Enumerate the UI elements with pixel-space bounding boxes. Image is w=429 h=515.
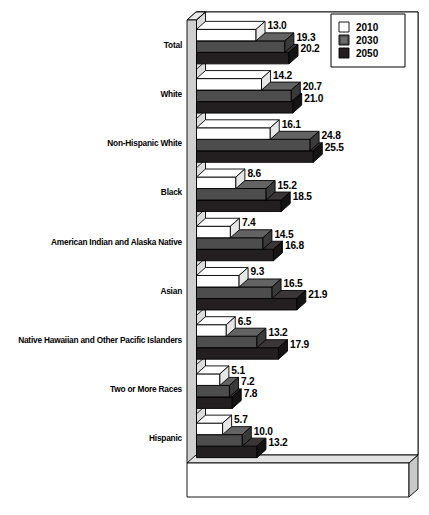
bar-front-face — [197, 79, 262, 91]
legend-swatch-2010 — [339, 22, 349, 32]
bar-value-label: 24.8 — [322, 130, 342, 141]
bar-value-label: 25.5 — [325, 142, 345, 153]
bar-front-face — [197, 287, 273, 299]
bar-front-face — [197, 29, 257, 41]
bar-front-face — [197, 189, 267, 201]
floor-right-face — [409, 455, 418, 497]
bar-value-label: 16.5 — [284, 278, 304, 289]
floor-front-face — [187, 463, 409, 497]
bar-value-label: 21.0 — [304, 93, 324, 104]
bar-front-face — [197, 52, 290, 64]
bar-value-label: 5.1 — [231, 365, 245, 376]
bar-front-face — [197, 238, 263, 250]
bar-value-label: 13.2 — [268, 327, 288, 338]
legend-label-2030: 2030 — [356, 35, 379, 46]
bar-value-label: 20.2 — [301, 43, 321, 54]
legend-label-2010: 2010 — [356, 22, 379, 33]
bar-value-label: 16.1 — [282, 119, 302, 130]
bar-value-label: 7.8 — [244, 388, 258, 399]
bar-value-label: 14.2 — [273, 70, 293, 81]
legend-label-2050: 2050 — [356, 48, 379, 59]
bar-front-face — [197, 374, 220, 386]
legend-swatch-inner — [341, 37, 347, 43]
category-label: American Indian and Alaska Native — [51, 237, 183, 247]
bar-front-face — [197, 90, 292, 102]
bar-value-label: 17.9 — [290, 339, 310, 350]
bar-front-face — [197, 275, 240, 287]
bar-chart-3d: 13.019.320.214.220.721.016.124.825.58.61… — [0, 0, 429, 515]
bar-front-face — [197, 249, 274, 261]
bar-value-label: 21.9 — [308, 289, 328, 300]
category-label: Asian — [160, 286, 182, 296]
bar-value-label: 9.3 — [251, 266, 265, 277]
axis-wall-front-face — [187, 20, 197, 463]
category-label: Native Hawaiian and Other Pacific Island… — [18, 335, 182, 345]
bar-value-label: 8.6 — [247, 168, 261, 179]
bar-top-face — [197, 120, 280, 128]
bar-front-face — [197, 385, 230, 397]
bar-value-label: 13.0 — [268, 20, 288, 31]
bar-front-face — [197, 139, 311, 151]
bar-front-face — [197, 200, 282, 212]
category-label: Black — [161, 187, 183, 197]
legend-swatch-2050 — [339, 48, 349, 58]
bar-front-face — [197, 128, 271, 140]
bar-front-face — [197, 325, 227, 337]
bar-front-face — [197, 336, 257, 348]
category-label: White — [160, 89, 182, 99]
bar-value-label: 20.7 — [303, 81, 323, 92]
bar-value-label: 10.0 — [254, 426, 274, 437]
category-label: Total — [164, 40, 182, 50]
bar-front-face — [197, 226, 231, 238]
bar-front-face — [197, 298, 297, 310]
chart-container: 13.019.320.214.220.721.016.124.825.58.61… — [0, 0, 429, 515]
bar-value-label: 7.4 — [242, 217, 256, 228]
bar-top-face — [197, 21, 266, 29]
bar-value-label: 5.7 — [234, 414, 248, 425]
bar-front-face — [197, 102, 293, 114]
bar-value-label: 16.8 — [285, 240, 305, 251]
category-label: Hispanic — [149, 433, 183, 443]
bar-value-label: 14.5 — [274, 229, 294, 240]
bar-front-face — [197, 397, 233, 409]
bar-front-face — [197, 446, 257, 458]
bar-value-label: 6.5 — [238, 316, 252, 327]
bar-front-face — [197, 177, 236, 189]
bar-top-face — [197, 71, 271, 79]
bar-value-label: 7.2 — [241, 376, 255, 387]
bar-front-face — [197, 348, 279, 360]
bar-value-label: 19.3 — [296, 32, 316, 43]
bar-value-label: 18.5 — [293, 191, 313, 202]
category-label: Non-Hispanic White — [107, 138, 182, 148]
bar-value-label: 13.2 — [268, 437, 288, 448]
category-label: Two or More Races — [110, 384, 183, 394]
bar-front-face — [197, 151, 314, 163]
bar-front-face — [197, 423, 223, 435]
bar-value-label: 15.2 — [278, 180, 298, 191]
bar-front-face — [197, 41, 285, 53]
bar-front-face — [197, 435, 243, 447]
